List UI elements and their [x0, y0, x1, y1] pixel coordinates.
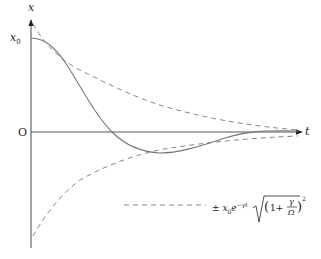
diagram-canvas: [0, 0, 321, 259]
legend-formula: ± x0e−γt: [212, 201, 248, 215]
x0-label: x0: [10, 32, 21, 46]
legend-omega: Ω: [288, 208, 295, 217]
legend-one-plus: 1+: [270, 203, 283, 213]
lower-envelope-curve: [33, 136, 298, 236]
origin-label: O: [18, 127, 27, 138]
legend-gamma: γ: [289, 197, 294, 206]
legend-paren-open: (: [264, 199, 269, 214]
legend-square: 2: [302, 195, 306, 202]
t-axis-label: t: [305, 126, 309, 137]
damped-oscillation-curve: [31, 38, 298, 153]
upper-envelope-curve: [33, 24, 298, 130]
pm-symbol: ±: [212, 203, 220, 213]
y-axis-label: x: [28, 2, 34, 13]
